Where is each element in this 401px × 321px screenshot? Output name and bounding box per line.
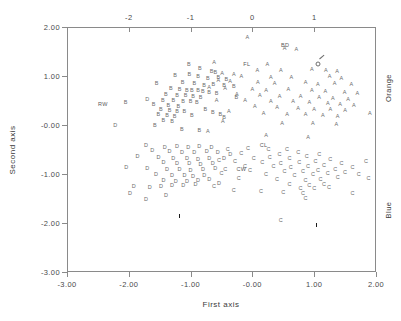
data-point-c: C (264, 172, 268, 178)
data-point-b: B (196, 88, 200, 94)
x-axis-title: First axis (203, 300, 240, 309)
data-point-d: D (144, 143, 148, 149)
data-point-b: B (180, 127, 184, 133)
data-point-c: C (322, 163, 326, 169)
right-axis-label-orange: Orange (384, 74, 393, 102)
data-point-d: D (156, 156, 160, 162)
y-axis-tick (62, 125, 67, 126)
data-point-a: A (269, 100, 273, 106)
data-point-d: D (210, 145, 214, 151)
data-point-c: C (351, 165, 355, 171)
top-axis-tick (314, 27, 315, 32)
data-point-a: A (251, 87, 255, 93)
x-axis-tick-label: 1.00 (306, 280, 322, 289)
data-point-a: A (264, 88, 268, 94)
data-point-b: B (152, 103, 156, 109)
y-axis-tick (62, 76, 67, 77)
data-point-a: A (262, 111, 266, 117)
data-point-a: A (335, 69, 339, 75)
data-point-c: C (287, 182, 291, 188)
data-point-b: B (181, 100, 185, 106)
data-point-a: A (289, 75, 293, 81)
x-axis-tick-label: 2.00 (368, 280, 384, 289)
data-point-b: B (155, 81, 159, 87)
data-point-a: A (338, 103, 342, 109)
data-point-a: A (343, 109, 347, 115)
data-point-c: C (351, 191, 355, 197)
data-point-c: C (220, 171, 224, 177)
data-point-a: A (239, 74, 243, 80)
chart-canvas: First axis Second axis Orange Blue -3.00… (0, 0, 401, 321)
data-point-b: B (207, 90, 211, 96)
data-point-d: D (144, 198, 148, 204)
data-point-c: C (237, 176, 241, 182)
data-point-a: A (275, 106, 279, 112)
data-point-a: A (253, 105, 257, 111)
data-point-c: C (259, 189, 263, 195)
data-point-d: D (168, 150, 172, 156)
data-point-c: C (233, 159, 237, 165)
data-point-c: C (326, 171, 330, 177)
x-axis-tick (376, 272, 377, 277)
data-point-d: D (228, 153, 232, 159)
data-point-a: A (356, 91, 360, 97)
data-point-b: B (195, 101, 199, 107)
data-point-a: A (215, 98, 219, 104)
data-point-b: B (170, 119, 174, 125)
data-point-a: A (317, 95, 321, 101)
data-point-b: B (187, 62, 191, 68)
data-point-c: C (313, 159, 317, 165)
data-point-d: D (165, 167, 169, 173)
data-point-b: B (215, 91, 219, 97)
data-point-a: A (264, 133, 268, 139)
data-point-c: C (305, 155, 309, 161)
data-point-c: C (327, 185, 331, 191)
data-point-b: B (169, 86, 173, 92)
data-point-d: D (174, 179, 178, 185)
data-point-b: B (153, 123, 157, 129)
data-point-a: A (243, 99, 247, 105)
data-point-a: A (328, 108, 332, 114)
top-axis-tick-label: -1 (187, 13, 194, 22)
data-point-b: B (188, 72, 192, 78)
data-point-c: C (283, 169, 287, 175)
data-point-d: D (113, 123, 117, 129)
data-point-b: B (183, 110, 187, 116)
data-point-c: C (281, 190, 285, 196)
data-point-a: A (331, 96, 335, 102)
data-point-a: A (299, 94, 303, 100)
data-point-a: A (278, 94, 282, 100)
data-point-c: C (339, 161, 343, 167)
data-point-b: B (206, 76, 210, 82)
top-axis-tick-label: 0 (250, 13, 255, 22)
data-point-b: B (124, 101, 128, 107)
data-point-c: C (322, 182, 326, 188)
data-point-c: C (292, 173, 296, 179)
data-point-b: B (157, 112, 161, 118)
x-axis-tick (314, 272, 315, 277)
data-point-c: C (239, 152, 243, 158)
data-point-a: A (335, 122, 339, 128)
annotation-cw: CW (236, 167, 246, 173)
data-point-b: B (189, 100, 193, 106)
x-axis-tick (191, 272, 192, 277)
data-point-a: A (312, 108, 316, 114)
data-point-c: C (223, 167, 227, 173)
data-point-c: C (248, 168, 252, 174)
data-point-b: B (161, 98, 165, 104)
data-point-a: A (256, 80, 260, 86)
data-point-c: C (333, 167, 337, 173)
data-point-d: D (150, 149, 154, 155)
data-point-c: C (296, 151, 300, 157)
data-point-c: C (297, 160, 301, 166)
data-point-b: B (198, 66, 202, 72)
data-point-a: A (349, 83, 353, 89)
data-point-b: B (211, 110, 215, 116)
data-point-d: D (180, 151, 184, 157)
annotation-cl: CL (260, 143, 268, 149)
data-point-a: A (321, 113, 325, 119)
x-axis-tick (252, 272, 253, 277)
data-point-d: D (194, 182, 198, 188)
data-point-a: A (306, 135, 310, 141)
data-point-d: D (217, 181, 221, 187)
